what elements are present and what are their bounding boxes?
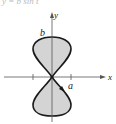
label-b: b (40, 27, 45, 38)
label-a: a (68, 80, 73, 91)
origin-point (50, 75, 53, 78)
equation-text: y = b sin t (1, 0, 39, 6)
x-axis-label: x (107, 72, 112, 82)
x-axis-arrow-icon (100, 75, 106, 79)
parametric-curve-diagram: y = b sin t y x b a (0, 0, 116, 124)
y-axis-label: y (53, 10, 58, 20)
